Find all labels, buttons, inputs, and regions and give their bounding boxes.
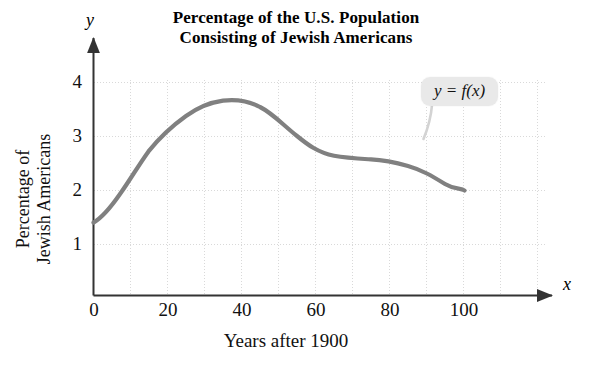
x-axis-letter: x: [563, 274, 571, 295]
x-axis-title: Years after 1900: [146, 330, 426, 352]
x-tick-label-100: 100: [444, 299, 484, 321]
y-tick-label-3: 3: [56, 125, 82, 147]
title-line-1: Percentage of the U.S. Population: [126, 8, 466, 28]
function-callout-label: y = f(x): [421, 77, 498, 106]
callout-pointer: [424, 105, 433, 139]
y-tick-label-1: 1: [56, 233, 82, 255]
title-line-2: Consisting of Jewish Americans: [126, 28, 466, 48]
grid-vertical: [94, 80, 538, 295]
y-tick-label-2: 2: [56, 179, 82, 201]
x-tick-label-20: 20: [148, 299, 188, 321]
page-title: Percentage of the U.S. Population Consis…: [126, 8, 466, 48]
x-tick-label-40: 40: [222, 299, 262, 321]
x-tick-label-60: 60: [296, 299, 336, 321]
plot-area: [0, 0, 592, 378]
x-tick-label-80: 80: [370, 299, 410, 321]
y-tick-label-4: 4: [56, 71, 82, 93]
x-tick-label-0: 0: [74, 299, 114, 321]
grid-horizontal: [94, 83, 546, 245]
chart-figure: Percentage of the U.S. Population Consis…: [0, 0, 592, 378]
y-axis-title-line-2: Jewish Americans: [34, 104, 55, 294]
y-axis-title-line-1: Percentage of: [13, 104, 34, 294]
y-axis-letter: y: [86, 10, 94, 31]
y-axis-title: Percentage of Jewish Americans: [13, 104, 55, 294]
